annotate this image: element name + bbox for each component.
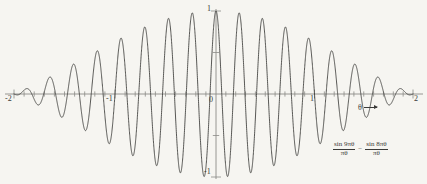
formula-annotation: sin 9πθ πθ − sin 8πθ πθ <box>333 141 388 158</box>
x-tick-label-plus-1: 1 <box>310 95 314 103</box>
origin-label: 0 <box>209 96 213 104</box>
x-tick-label-minus-1: -1 <box>106 95 113 103</box>
formula-term-2-denominator: πθ <box>373 150 380 158</box>
y-tick-label-plus-1: 1 <box>207 5 211 13</box>
formula-operator: − <box>357 146 363 153</box>
y-tick-label-minus-1: -1 <box>204 168 211 176</box>
formula-term-1-denominator: πθ <box>341 150 348 158</box>
formula-term-1: sin 9πθ πθ <box>333 141 355 158</box>
formula-term-2: sin 8πθ πθ <box>365 141 387 158</box>
x-tick-label-minus-2: -2 <box>5 95 12 103</box>
right-arrow-icon <box>364 107 377 108</box>
theta-symbol: θ <box>358 103 362 112</box>
x-axis-direction-annotation: θ <box>358 103 377 112</box>
x-tick-label-plus-2: 2 <box>414 95 418 103</box>
